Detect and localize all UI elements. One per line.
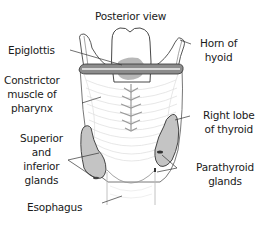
label-esophagus: Esophagus [27,200,82,214]
label-constrictor-muscle: Constrictor muscle of pharynx [4,73,60,115]
label-epiglottis: Epiglottis [8,43,55,57]
label-parathyroid-glands: Parathyroid glands [196,160,254,188]
label-right-lobe-thyroid: Right lobe of thyroid [203,108,254,136]
label-superior-inferior-glands: Superior and inferior glands [20,131,63,187]
label-horn-of-hyoid: Horn of hyoid [200,36,237,64]
parathyroid-right-upper [157,151,163,154]
parathyroid-right-lower [154,168,156,172]
thyroid-diagram: Posterior view Epiglottis Horn of hyoid … [0,0,264,225]
title-posterior-view: Posterior view [95,9,166,23]
